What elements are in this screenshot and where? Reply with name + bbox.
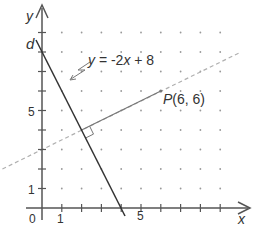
grid-dot <box>140 32 142 34</box>
coordinate-diagram: y x 0 1 5 1 5 d y = -2x + 8 P(6, 6) <box>0 0 262 230</box>
grid-dot <box>120 149 122 151</box>
grid-dot <box>120 71 122 73</box>
y-tick-label-1: 1 <box>28 183 35 197</box>
grid-dot <box>219 90 221 92</box>
grid-dot <box>200 110 202 112</box>
y-axis-label: y <box>25 8 34 24</box>
grid-dot <box>81 51 83 53</box>
grid-dot <box>140 149 142 151</box>
point-p <box>159 89 162 92</box>
grid-dot <box>61 71 63 73</box>
grid-dot <box>120 129 122 131</box>
grid-dot <box>219 71 221 73</box>
grid-dot <box>61 129 63 131</box>
grid-dot <box>200 129 202 131</box>
grid-dot <box>101 110 103 112</box>
grid-dot <box>180 71 182 73</box>
grid-dot <box>61 51 63 53</box>
grid-dot <box>160 51 162 53</box>
grid-dot <box>219 188 221 190</box>
grid-dot <box>200 168 202 170</box>
grid-dot <box>200 149 202 151</box>
line-d-label: d <box>26 35 35 52</box>
grid-dot <box>120 90 122 92</box>
grid-dot <box>61 188 63 190</box>
grid-dot <box>219 168 221 170</box>
grid-dot <box>120 188 122 190</box>
grid-dot <box>180 149 182 151</box>
x-axis-label: x <box>237 211 246 227</box>
grid-dot <box>140 188 142 190</box>
grid-dot <box>101 129 103 131</box>
grid-dot <box>160 32 162 34</box>
grid-dot <box>140 129 142 131</box>
grid-dot <box>101 149 103 151</box>
grid-dot <box>81 168 83 170</box>
diagram-svg: y x 0 1 5 1 5 d y = -2x + 8 P(6, 6) <box>0 0 262 230</box>
grid-dot <box>219 51 221 53</box>
grid-dot <box>61 168 63 170</box>
grid-dot <box>200 32 202 34</box>
grid-dot <box>180 129 182 131</box>
line-d-equation: y = -2x + 8 <box>87 52 154 68</box>
grid-dot <box>81 90 83 92</box>
grid-dot <box>200 51 202 53</box>
grid-dot <box>101 90 103 92</box>
grid-dot <box>120 168 122 170</box>
grid-dot <box>219 32 221 34</box>
grid-dot <box>160 149 162 151</box>
grid-dot <box>140 71 142 73</box>
grid-dot <box>160 129 162 131</box>
grid-dot <box>180 32 182 34</box>
perpendicular-segment <box>82 91 161 130</box>
grid-dot <box>180 110 182 112</box>
grid-dot <box>219 129 221 131</box>
grid-dot <box>101 32 103 34</box>
grid-dot <box>219 149 221 151</box>
grid-dot <box>101 188 103 190</box>
grid-dot <box>61 149 63 151</box>
grid-dot <box>81 149 83 151</box>
grid-dot <box>140 110 142 112</box>
grid-dot <box>81 32 83 34</box>
grid-dot <box>81 188 83 190</box>
point-p-label: P(6, 6) <box>163 91 205 107</box>
grid-dot <box>160 110 162 112</box>
origin-label: 0 <box>29 212 36 226</box>
grid-dot <box>140 90 142 92</box>
grid-dot <box>180 188 182 190</box>
grid-dot <box>160 188 162 190</box>
grid-dot <box>219 110 221 112</box>
grid-dot <box>160 168 162 170</box>
grid-dot <box>160 71 162 73</box>
grid-dot <box>180 168 182 170</box>
grid-dot <box>140 168 142 170</box>
grid-dot <box>180 51 182 53</box>
grid-dot <box>120 32 122 34</box>
grid-dot <box>81 110 83 112</box>
grid-dot <box>101 71 103 73</box>
grid-dot <box>200 188 202 190</box>
x-tick-label-1: 1 <box>57 212 64 226</box>
x-tick-label-5: 5 <box>137 209 144 223</box>
grid-dot <box>61 32 63 34</box>
grid-dot <box>61 110 63 112</box>
y-tick-label-5: 5 <box>28 105 35 119</box>
